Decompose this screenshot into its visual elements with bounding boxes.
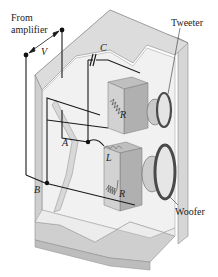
woofer-resistance-label: R: [119, 189, 125, 199]
capacitor-label: C: [100, 43, 107, 53]
speaker-cabinet: [35, 10, 188, 270]
woofer-label: Woofer: [175, 207, 205, 217]
node-b-label: B: [34, 185, 40, 195]
inductor-label: L: [106, 153, 112, 163]
diagram-graphic: [0, 0, 218, 277]
tweeter-resistor-box: [108, 77, 148, 134]
tweeter-resistance-label: R: [120, 110, 126, 120]
amplifier-terminal-right: [60, 28, 65, 33]
source-label-line1: From: [11, 13, 33, 23]
node-a-label: A: [62, 138, 68, 148]
voltage-label: V: [41, 47, 47, 57]
node-a-dot: [86, 140, 90, 144]
amplifier-terminal-left: [24, 53, 29, 58]
node-b-dot: [45, 181, 49, 185]
crossover-diagram: From amplifier V C Tweeter R A L R B Woo…: [0, 0, 218, 277]
source-label-line2: amplifier: [11, 25, 48, 35]
tweeter-label: Tweeter: [171, 18, 203, 28]
